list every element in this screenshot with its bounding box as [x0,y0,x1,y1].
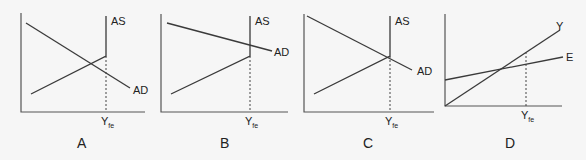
panel-b-yfe-sub: fe [252,122,258,129]
panel-b-axes [161,14,288,112]
panel-d-e-line [445,57,563,80]
panel-d-y-line [445,30,560,106]
panel-b-ad-curve [167,23,272,51]
panel-c-yfe-sub: fe [392,122,398,129]
panel-b-as-label: AS [255,16,270,27]
panel-c-graph [304,14,434,112]
panel-c-axes [304,14,434,112]
panel-c-yfe-label: Yfe [385,116,398,129]
panel-a-yfe-sub: fe [108,122,114,129]
panel-d-e-label: E [566,52,573,63]
panel-a-yfe-label: Yfe [101,116,114,129]
panel-d-graph [445,14,563,106]
panel-a-caption: A [77,136,86,150]
panel-b-graph [161,14,288,112]
panel-a-as-label: AS [111,16,126,27]
panel-d-caption: D [505,136,515,150]
panel-b-caption: B [220,136,229,150]
panel-a-graph [21,13,145,112]
panel-d-y-label: Y [556,21,563,32]
panel-b-ad-label: AD [274,47,289,58]
panel-a-ad-label: AD [133,85,148,96]
panel-c-as-label: AS [395,16,410,27]
panel-c-as-curve [314,16,390,94]
panel-b-yfe-label: Yfe [245,116,258,129]
panel-c-caption: C [363,136,373,150]
panel-a-axes [21,13,145,112]
panel-d-yfe-label: Yfe [521,110,534,123]
panel-c-ad-label: AD [417,66,432,77]
panel-a-as-curve [31,16,106,94]
panel-a-ad-curve [26,23,130,88]
panel-d-yfe-sub: fe [528,116,534,123]
diagram-canvas [0,0,586,160]
